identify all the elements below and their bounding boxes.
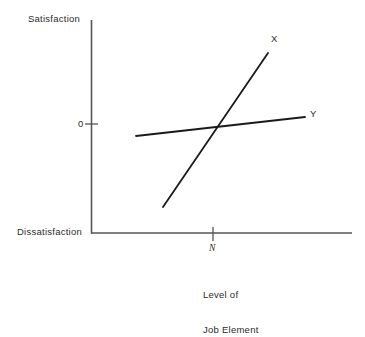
y-axis-label-satisfaction: Satisfaction <box>28 13 80 25</box>
x-axis-title: Level of Job Element <box>203 266 259 337</box>
x-axis-title-line2: Job Element <box>203 324 259 336</box>
x-axis-title-line1: Level of <box>203 289 259 301</box>
x-axis-tick-label-n: N <box>209 243 215 255</box>
y-axis-label-dissatisfaction: Dissatisfaction <box>17 226 82 238</box>
series-line-y <box>136 117 305 136</box>
y-axis-tick-label-zero: 0 <box>78 118 83 130</box>
series-line-x <box>163 53 268 207</box>
series-label-x: X <box>271 33 277 45</box>
series-label-y: Y <box>310 108 316 120</box>
